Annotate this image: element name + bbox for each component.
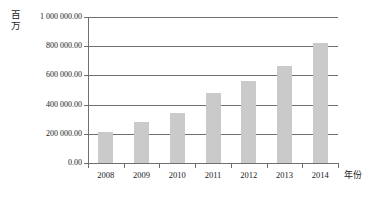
bar <box>277 66 292 163</box>
y-axis-tick-label: 0.00 <box>68 159 82 167</box>
x-axis-tick <box>88 163 89 168</box>
x-axis-tick-label: 2011 <box>205 170 222 180</box>
x-axis-tick-label: 2009 <box>133 170 150 180</box>
x-axis-tick-label: 2013 <box>276 170 293 180</box>
gridline <box>88 17 338 18</box>
y-axis-unit-label: 百 万 <box>8 10 24 31</box>
x-axis-tick <box>267 163 268 168</box>
y-axis-tick-label: 800 000.00 <box>46 42 82 50</box>
bar <box>134 122 149 163</box>
x-axis-tick <box>195 163 196 168</box>
bar <box>313 43 328 163</box>
x-axis-tick-label: 2010 <box>169 170 186 180</box>
y-axis-line <box>88 17 89 163</box>
y-axis-tick <box>84 17 88 18</box>
x-axis-tick <box>231 163 232 168</box>
plot-area: 0.00200 000.00400 000.00600 000.00800 00… <box>88 17 338 163</box>
y-axis-tick <box>84 105 88 106</box>
y-axis-tick-label: 200 000.00 <box>46 130 82 138</box>
y-axis-tick <box>84 134 88 135</box>
gridline <box>88 46 338 47</box>
x-axis-tick <box>338 163 339 168</box>
bar <box>206 93 221 163</box>
x-axis-tick <box>159 163 160 168</box>
x-axis-tick <box>302 163 303 168</box>
y-axis-tick-label: 1 000 000.00 <box>40 13 82 21</box>
y-axis-unit-char-1: 百 <box>8 10 24 21</box>
bar <box>98 132 113 163</box>
y-axis-tick-label: 400 000.00 <box>46 101 82 109</box>
bar <box>170 113 185 163</box>
x-axis-tick <box>124 163 125 168</box>
y-axis-tick <box>84 75 88 76</box>
gridline <box>88 163 338 164</box>
x-axis-tick-label: 2008 <box>97 170 114 180</box>
x-axis-unit-label: 年份 <box>344 170 362 180</box>
gridline <box>88 75 338 76</box>
y-axis-tick <box>84 46 88 47</box>
bar-chart: 百 万 0.00200 000.00400 000.00600 000.0080… <box>0 0 368 203</box>
x-axis-tick-label: 2014 <box>312 170 329 180</box>
x-axis-tick-label: 2012 <box>240 170 257 180</box>
y-axis-tick-label: 600 000.00 <box>46 71 82 79</box>
y-axis-unit-char-2: 万 <box>8 21 24 32</box>
bar <box>241 81 256 163</box>
